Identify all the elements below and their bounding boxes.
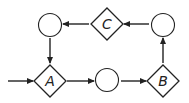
node-a: A bbox=[34, 65, 66, 97]
flow-diagram: A B C bbox=[0, 0, 189, 103]
circle-top-left-node bbox=[39, 14, 62, 37]
node-b: B bbox=[147, 65, 179, 97]
node-c-label: C bbox=[102, 16, 112, 32]
node-b-label: B bbox=[158, 73, 168, 89]
node-a-label: A bbox=[44, 73, 55, 89]
circle-top-right-node bbox=[152, 14, 175, 37]
node-c: C bbox=[91, 8, 123, 40]
circle-bottom-node bbox=[96, 69, 119, 92]
